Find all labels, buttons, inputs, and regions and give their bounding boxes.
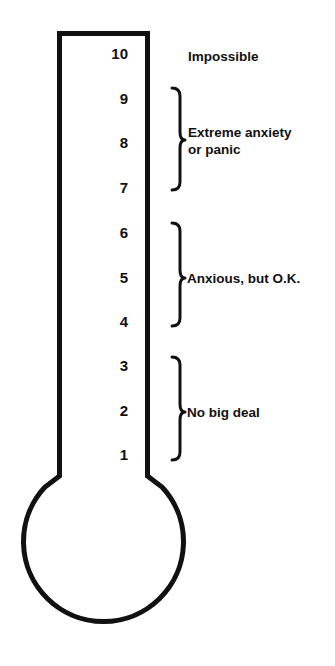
label-impossible: Impossible [188, 48, 259, 65]
label-no-big-deal: No big deal [187, 404, 260, 421]
scale-number-2: 2 [88, 402, 128, 420]
scale-number-1: 1 [88, 446, 128, 464]
scale-number-3: 3 [88, 357, 128, 375]
scale-number-8: 8 [88, 134, 128, 152]
scale-number-9: 9 [88, 90, 128, 108]
brace-extreme-anxiety [172, 88, 185, 190]
brace-anxious-but-ok [172, 223, 185, 326]
scale-number-6: 6 [88, 224, 128, 242]
scale-number-5: 5 [88, 269, 128, 287]
label-anxious-but-ok: Anxious, but O.K. [187, 270, 300, 287]
label-extreme-anxiety-line2: or panic [188, 141, 241, 158]
label-extreme-anxiety-line1: Extreme anxiety [188, 124, 292, 141]
scale-number-7: 7 [88, 179, 128, 197]
thermometer-outline [0, 0, 335, 666]
anxiety-thermometer-diagram: 10 9 8 7 6 5 4 3 2 1 Impossible Extreme … [0, 0, 335, 666]
scale-number-10: 10 [88, 45, 128, 63]
brace-no-big-deal [172, 357, 185, 460]
scale-number-4: 4 [88, 313, 128, 331]
